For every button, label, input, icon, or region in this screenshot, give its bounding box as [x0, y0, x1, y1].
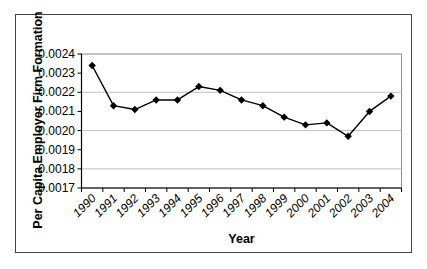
x-tick-label: 2004 [368, 191, 398, 221]
chart-figure: 0.00170.00180.00190.00200.00210.00220.00… [0, 0, 427, 269]
x-axis-title: Year [161, 232, 322, 246]
y-axis-title: Per Capita Employer Firm Formation [31, 11, 45, 228]
plot-svg: 0.00170.00180.00190.00200.00210.00220.00… [0, 0, 427, 269]
plot-area [82, 54, 402, 188]
y-axis-title-box: Per Capita Employer Firm Formation [26, 16, 50, 224]
